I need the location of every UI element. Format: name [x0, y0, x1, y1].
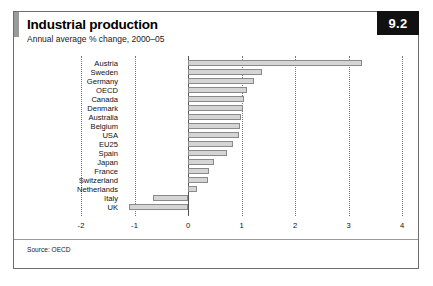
bar	[188, 69, 262, 75]
tick-label: 0	[186, 221, 190, 230]
bars-layer	[14, 56, 420, 216]
bar	[188, 150, 227, 156]
chart-figure: Industrial production Annual average % c…	[13, 11, 419, 269]
chart-number-badge: 9.2	[377, 11, 419, 35]
bar	[188, 105, 243, 111]
bar	[188, 186, 197, 192]
bar	[188, 177, 208, 183]
tick-label: -2	[78, 221, 85, 230]
bar	[188, 78, 254, 84]
chart-subtitle: Annual average % change, 2000–05	[27, 34, 165, 44]
tick-label: -1	[131, 221, 138, 230]
value-axis-ticks: -2-101234	[14, 216, 420, 236]
bar	[188, 159, 214, 165]
bar	[188, 168, 209, 174]
bar	[188, 87, 247, 93]
page-title: Industrial production	[27, 17, 158, 32]
bar	[188, 132, 239, 138]
tick-label: 2	[293, 221, 297, 230]
bar	[153, 195, 188, 201]
title-accent-bar	[14, 12, 19, 37]
bar	[188, 60, 362, 66]
bar	[129, 204, 188, 210]
tick-label: 4	[400, 221, 404, 230]
bar	[188, 96, 244, 102]
chart-header: Industrial production Annual average % c…	[14, 12, 418, 56]
tick-label: 3	[346, 221, 350, 230]
plot-area: AustriaSwedenGermanyOECDCanadaDenmarkAus…	[14, 56, 420, 240]
bar	[188, 141, 233, 147]
tick-label: 1	[239, 221, 243, 230]
source-note: Source: OECD	[27, 246, 71, 253]
chart-footer: Source: OECD	[14, 239, 418, 268]
bar	[188, 114, 241, 120]
bar	[188, 123, 240, 129]
